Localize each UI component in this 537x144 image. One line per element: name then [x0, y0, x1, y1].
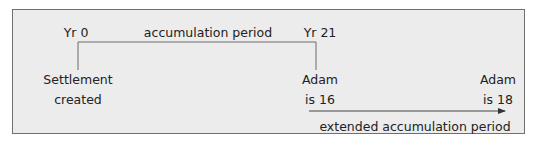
extended-accumulation-period-label: extended accumulation period: [310, 119, 520, 134]
settlement-created-line1: Settlement: [38, 70, 118, 90]
accumulation-period-label: accumulation period: [132, 25, 284, 40]
end-year-label: Yr 21: [300, 25, 340, 40]
adam-is-16-label: Adam is 16: [296, 70, 344, 110]
adam-is-16-line2: is 16: [296, 90, 344, 110]
start-year-label: Yr 0: [58, 25, 94, 40]
settlement-created-label: Settlement created: [38, 70, 118, 110]
adam-is-18-line2: is 18: [474, 90, 522, 110]
adam-is-18-label: Adam is 18: [474, 70, 522, 110]
adam-is-18-line1: Adam: [474, 70, 522, 90]
adam-is-16-line1: Adam: [296, 70, 344, 90]
settlement-created-line2: created: [38, 90, 118, 110]
